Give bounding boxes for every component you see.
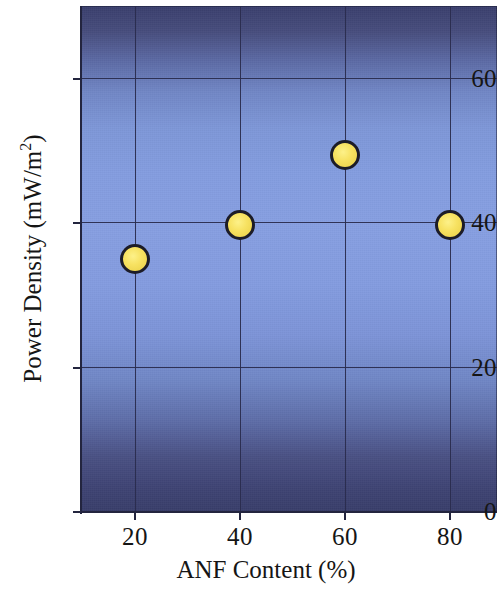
y-axis-tick-60 <box>73 78 81 80</box>
y-axis-label-60: 60 <box>435 66 497 91</box>
y-axis-tick-20 <box>73 367 81 369</box>
y-axis-title-main: Power Density (mW/m <box>19 151 46 383</box>
y-axis-label-40: 40 <box>435 210 497 235</box>
y-axis-label-20: 20 <box>435 355 497 380</box>
y-axis-tick-0 <box>73 511 81 513</box>
data-point[interactable] <box>330 140 360 170</box>
y-axis-title-end: ) <box>19 134 46 142</box>
x-axis-label-20: 20 <box>100 523 170 551</box>
x-axis-label-60: 60 <box>310 523 380 551</box>
x-axis-tick-40 <box>239 512 241 520</box>
x-axis-title: ANF Content (%) <box>81 556 451 584</box>
gridline-x-60 <box>345 6 346 512</box>
y-axis-line <box>80 6 82 514</box>
y-axis-label-0: 0 <box>435 499 497 524</box>
x-axis-label-40: 40 <box>205 523 275 551</box>
chart-figure: 60 40 20 0 20 40 60 80 Power Density (mW… <box>0 0 497 590</box>
data-point[interactable] <box>225 210 255 240</box>
x-axis-tick-60 <box>344 512 346 520</box>
x-axis-label-80: 80 <box>415 523 485 551</box>
gridline-x-40 <box>240 6 241 512</box>
data-point[interactable] <box>120 244 150 274</box>
x-axis-tick-20 <box>134 512 136 520</box>
y-axis-title-superscript: 2 <box>17 143 34 151</box>
y-axis-tick-40 <box>73 222 81 224</box>
y-axis-title: Power Density (mW/m2) <box>19 49 46 469</box>
